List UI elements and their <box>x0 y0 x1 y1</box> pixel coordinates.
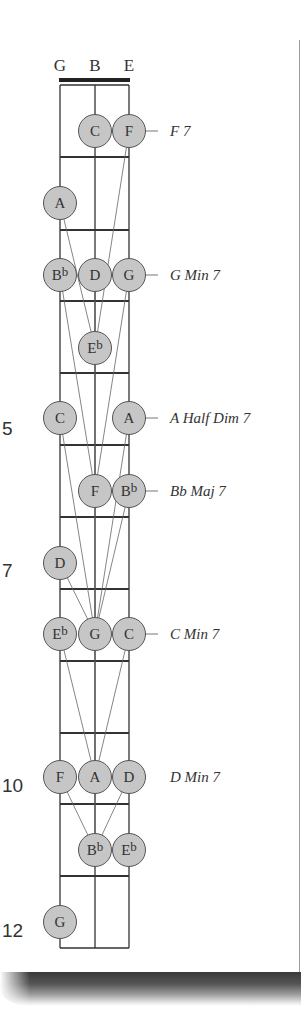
chord-label: F 7 <box>170 122 190 140</box>
note-dot: G <box>112 258 146 292</box>
note-name: G <box>124 267 135 284</box>
page-edge <box>299 40 300 975</box>
note-name: E <box>52 626 61 643</box>
voice-leading-line <box>95 275 129 491</box>
note-dot: D <box>112 760 146 794</box>
note-dot: G <box>43 905 77 939</box>
note-name: G <box>55 914 66 931</box>
voice-leading-line <box>95 131 129 348</box>
note-name: C <box>90 123 100 140</box>
note-name: F <box>91 483 99 500</box>
note-name: C <box>124 626 134 643</box>
note-name: A <box>124 410 135 427</box>
note-dot: Bb <box>78 833 112 867</box>
note-dot: C <box>78 114 112 148</box>
voice-leading-line <box>60 418 95 634</box>
note-dot: F <box>112 114 146 148</box>
voice-leading-line <box>95 491 129 634</box>
voice-leading-line <box>95 634 129 777</box>
fret-number: 7 <box>2 560 32 582</box>
note-name: D <box>55 555 66 572</box>
note-name: F <box>125 123 133 140</box>
note-dot: A <box>112 401 146 435</box>
note-dot: D <box>43 546 77 580</box>
fretboard <box>0 0 301 1016</box>
note-name: F <box>56 769 64 786</box>
note-name: C <box>55 410 65 427</box>
note-dot: F <box>43 760 77 794</box>
fret-number: 12 <box>2 920 32 942</box>
note-dot: Eb <box>78 331 112 365</box>
note-name: G <box>90 626 101 643</box>
note-dot: C <box>43 401 77 435</box>
note-name: A <box>90 769 101 786</box>
note-dot: G <box>78 617 112 651</box>
note-dot: D <box>78 258 112 292</box>
note-dot: F <box>78 474 112 508</box>
note-dot: C <box>112 617 146 651</box>
note-dot: Eb <box>112 833 146 867</box>
note-name: B <box>52 267 62 284</box>
note-dot: A <box>43 186 77 220</box>
chord-label: A Half Dim 7 <box>170 409 250 427</box>
note-name: D <box>124 769 135 786</box>
fret-number: 5 <box>2 418 32 440</box>
nut <box>59 78 130 82</box>
chord-label: D Min 7 <box>170 768 220 786</box>
note-dot: Bb <box>112 474 146 508</box>
chord-label: Bb Maj 7 <box>170 482 226 500</box>
fret-number: 10 <box>2 775 32 797</box>
chord-diagram-page: GBE571012CFABbDGEbCAFBbDEbGCFADBbEbGF 7G… <box>0 0 301 1016</box>
note-dot: Eb <box>43 617 77 651</box>
note-name: D <box>90 267 101 284</box>
note-name: E <box>121 842 130 859</box>
string-label-g: G <box>50 56 70 76</box>
note-dot: Bb <box>43 258 77 292</box>
chord-label: G Min 7 <box>170 266 220 284</box>
note-name: B <box>87 842 97 859</box>
chord-label: C Min 7 <box>170 625 219 643</box>
voice-leading-line <box>60 634 95 777</box>
voice-leading-line <box>95 418 129 634</box>
string-label-e: E <box>119 56 139 76</box>
note-dot: A <box>78 760 112 794</box>
note-name: E <box>87 340 96 357</box>
string-label-b: B <box>85 56 105 76</box>
note-name: A <box>55 195 66 212</box>
voice-leading-line <box>60 275 95 491</box>
page-shadow <box>0 972 301 1006</box>
note-name: B <box>121 483 131 500</box>
